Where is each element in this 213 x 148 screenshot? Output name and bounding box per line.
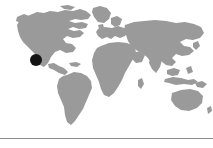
landmass-southeast-asia xyxy=(167,68,180,76)
landmass-scandinavia xyxy=(111,16,122,27)
landmass-madagascar xyxy=(138,78,144,89)
landmass-philippines xyxy=(186,66,193,74)
world-map-graphic xyxy=(0,0,213,135)
divider xyxy=(0,138,213,139)
world-map-figure xyxy=(0,0,213,148)
map-canvas[interactable] xyxy=(0,0,213,135)
landmass-africa xyxy=(92,42,136,97)
landmass-japan xyxy=(193,41,200,50)
landmass-indonesia xyxy=(164,77,198,85)
landmass-greenland xyxy=(92,6,111,23)
landmass-caribbean xyxy=(69,62,81,67)
landmass-arctic-islands xyxy=(60,5,75,10)
landmass-central-america xyxy=(48,63,68,75)
landmass-australia xyxy=(171,89,203,111)
location-dot-icon[interactable] xyxy=(30,54,42,66)
landmass-india xyxy=(149,57,162,73)
landmass-new-zealand xyxy=(207,106,212,114)
landmass-south-america xyxy=(57,72,92,125)
